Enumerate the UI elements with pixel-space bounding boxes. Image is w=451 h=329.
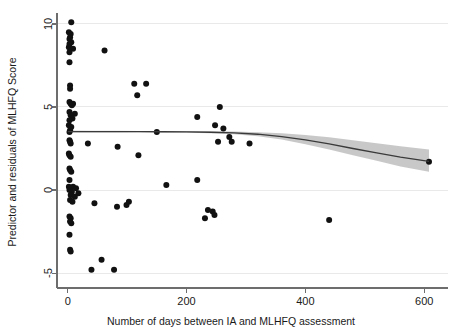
data-point xyxy=(67,86,73,92)
data-point xyxy=(68,220,74,226)
y-tick-label: 5 xyxy=(42,104,54,110)
data-point xyxy=(115,144,121,150)
data-point xyxy=(194,177,200,183)
data-point xyxy=(68,19,74,25)
x-tick-label: 0 xyxy=(65,295,71,307)
data-point xyxy=(229,139,235,145)
data-point xyxy=(143,81,149,87)
y-tick-label: 10 xyxy=(42,18,54,30)
data-point xyxy=(212,122,218,128)
data-point xyxy=(114,204,120,210)
data-point xyxy=(215,139,221,145)
data-point xyxy=(68,248,74,254)
data-point xyxy=(88,267,94,273)
x-tick-label: 600 xyxy=(415,295,433,307)
data-point xyxy=(66,232,72,238)
data-point xyxy=(66,177,72,183)
data-point xyxy=(66,59,72,65)
data-point xyxy=(134,92,140,98)
confidence-band xyxy=(68,131,429,172)
data-point xyxy=(211,212,217,218)
data-point xyxy=(220,126,226,132)
confidence-band-area xyxy=(68,131,429,172)
data-point xyxy=(91,200,97,206)
data-point xyxy=(202,215,208,221)
data-point xyxy=(194,114,200,120)
data-point xyxy=(68,169,74,175)
y-tick-label: -5 xyxy=(42,268,54,278)
x-axis-title: Number of days between IA and MLHFQ asse… xyxy=(107,315,355,327)
x-tick-label: 400 xyxy=(296,295,314,307)
data-point xyxy=(131,81,137,87)
data-point xyxy=(68,141,74,147)
data-point xyxy=(135,152,141,158)
x-tick-label: 200 xyxy=(177,295,195,307)
data-point xyxy=(66,49,72,55)
data-point xyxy=(217,104,223,110)
data-point xyxy=(85,141,91,147)
data-point xyxy=(68,154,74,160)
data-point xyxy=(247,141,253,147)
x-axis-ticks: 0200400600 xyxy=(65,288,434,307)
y-tick-label: 0 xyxy=(42,187,54,193)
data-point xyxy=(102,48,108,54)
y-axis-ticks: -50510 xyxy=(42,18,57,278)
data-point xyxy=(99,257,105,263)
data-point xyxy=(326,217,332,223)
data-point xyxy=(126,199,132,205)
y-axis-title: Predictor and residuals of MLHFQ Score xyxy=(6,57,18,246)
scatter-chart: 0200400600 -50510 Number of days between… xyxy=(0,0,451,329)
data-point xyxy=(69,199,75,205)
data-point xyxy=(69,102,75,108)
plot-canvas: 0200400600 -50510 Number of days between… xyxy=(0,0,451,329)
data-point xyxy=(163,182,169,188)
data-point xyxy=(111,267,117,273)
